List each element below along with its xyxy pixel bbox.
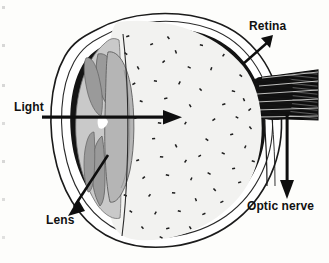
label-lens: Lens [46,214,74,226]
label-light: Light [14,101,44,113]
eye-diagram-figure: Light Lens Retina Optic nerve [0,0,329,263]
page-margin-marks [2,6,5,239]
label-retina: Retina [249,20,286,32]
label-optic-nerve: Optic nerve [247,200,314,212]
